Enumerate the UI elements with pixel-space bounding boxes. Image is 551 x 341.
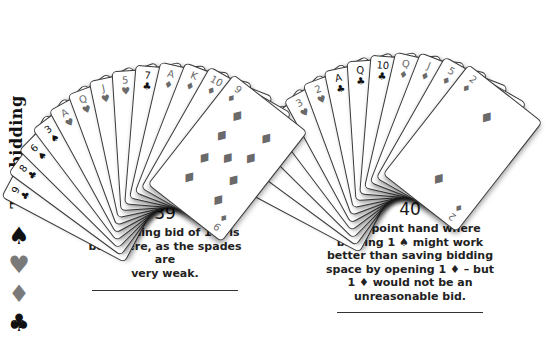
diamond-pip-icon: ♦ (177, 165, 201, 190)
diamond-pip-icon: ♦ (221, 168, 245, 193)
heart-icon: ♥ (118, 85, 133, 97)
card-index: J♥ (95, 81, 113, 105)
page-number: 62 (5, 318, 31, 331)
heart-icon: ♥ (98, 92, 114, 106)
club-icon: ♣ (333, 82, 349, 96)
heart-icon: ♥ (4, 251, 34, 280)
caption-line: very weak. (80, 267, 250, 281)
card-index: 5♥ (118, 74, 133, 97)
club-icon: ♣ (374, 70, 389, 82)
card-index: A♣ (330, 71, 348, 95)
card-index: 7♣ (139, 69, 155, 92)
diamond-pip-icon: ♦ (427, 166, 451, 191)
divider-rule (92, 290, 238, 291)
club-icon: ♣ (353, 75, 368, 87)
caption-line: better than saving bidding (325, 249, 495, 263)
diamond-pip-icon: ♦ (254, 126, 278, 151)
card-index-bottom: 2♦ (443, 199, 468, 225)
club-icon: ♣ (139, 80, 154, 92)
card-index-bottom: 9♦ (208, 209, 233, 235)
diamond-pip-icon: ♦ (225, 104, 249, 129)
card-index: 10♣ (374, 59, 390, 82)
diamond-pip-icon: ♦ (209, 123, 233, 148)
diamond-pip-icon: ♦ (206, 187, 230, 212)
diamond-pip-icon: ♦ (192, 145, 216, 170)
diamond-pip-icon: ♦ (474, 105, 498, 130)
divider-rule (337, 312, 483, 313)
diamond-icon: ♦ (4, 280, 34, 309)
diamond-pip-icon: ♦ (238, 146, 262, 171)
caption-line: 1 ♦ would not be an (325, 276, 495, 290)
card-index: Q♣ (353, 64, 368, 87)
card-index: 9♦ (222, 81, 247, 107)
diamond-pip-icon: ♦ (215, 146, 239, 171)
caption-line: space by opening 1 ♦ – but (325, 263, 495, 277)
card-index: 2♦ (457, 71, 482, 97)
spade-icon: ♠ (4, 222, 34, 251)
caption-line: unreasonable bid. (325, 290, 495, 304)
